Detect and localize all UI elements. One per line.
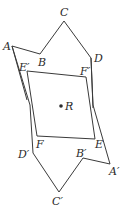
- label-b: B: [37, 56, 46, 69]
- label-a-prime: A′: [108, 165, 120, 178]
- label-a: A: [2, 40, 11, 53]
- center-point-r: [59, 104, 63, 108]
- segment-d-right: [91, 58, 93, 105]
- label-f: F: [35, 138, 44, 151]
- label-e-prime: E′: [18, 61, 30, 74]
- label-d-prime: D′: [17, 148, 30, 161]
- label-c-prime: C′: [52, 195, 63, 208]
- rotation-diagram: A B C D E′ F′ R F E D′ B′ A′ C′: [0, 0, 124, 211]
- label-f-prime: F′: [79, 65, 91, 78]
- label-e: E: [94, 138, 103, 151]
- label-b-prime: B′: [75, 147, 87, 160]
- label-d: D: [93, 52, 103, 65]
- label-r: R: [64, 100, 73, 113]
- label-c: C: [60, 6, 69, 19]
